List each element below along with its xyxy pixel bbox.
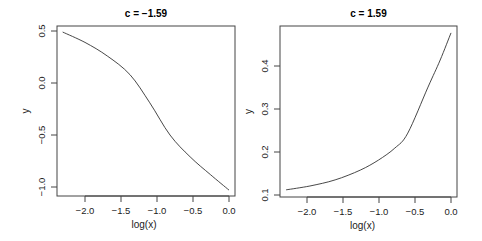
y-tick-label: 0.5 [36, 24, 47, 37]
data-line [63, 32, 229, 190]
x-tick-label: −1.5 [112, 205, 131, 216]
x-tick-label: −1.5 [334, 206, 353, 217]
x-axis-label: log(x) [131, 219, 156, 230]
y-tick-label: 0.3 [259, 102, 270, 115]
x-tick-label: −2.0 [76, 205, 95, 216]
x-tick-label: −0.5 [184, 205, 203, 216]
y-axis-label: y [243, 109, 254, 114]
y-tick-label: 0.0 [36, 76, 47, 89]
y-tick-label: 0.4 [259, 59, 270, 72]
panel-left: c = −1.59−2.0−1.5−1.0−0.50.00.50.0−0.5−1… [20, 8, 236, 230]
data-line [286, 33, 451, 190]
panel-right: c = 1.59−2.0−1.5−1.0−0.50.00.10.20.30.4l… [243, 8, 458, 231]
chart-title: c = −1.59 [125, 8, 168, 19]
plot-frame [57, 26, 235, 196]
x-tick-label: −0.5 [406, 206, 425, 217]
x-tick-label: 0.0 [444, 206, 457, 217]
y-tick-label: 0.1 [259, 188, 270, 201]
x-tick-label: −1.0 [370, 206, 389, 217]
x-tick-label: 0.0 [222, 205, 235, 216]
y-axis-label: y [20, 109, 31, 114]
y-tick-label: −1.0 [36, 178, 47, 197]
y-tick-label: 0.2 [259, 145, 270, 158]
plot-frame [280, 26, 457, 197]
figure: c = −1.59−2.0−1.5−1.0−0.50.00.50.0−0.5−1… [0, 0, 482, 241]
x-tick-label: −1.0 [148, 205, 167, 216]
x-axis-label: log(x) [350, 220, 375, 231]
chart-title: c = 1.59 [350, 8, 387, 19]
y-tick-label: −0.5 [36, 126, 47, 145]
x-tick-label: −2.0 [298, 206, 317, 217]
